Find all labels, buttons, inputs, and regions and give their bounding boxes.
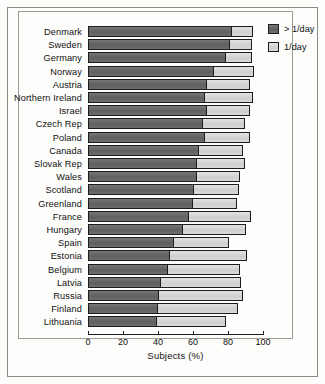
stacked-bar: [88, 184, 239, 195]
stacked-bar: [88, 290, 243, 301]
stacked-bar: [88, 105, 250, 116]
legend-swatch-dark-icon: [268, 24, 279, 34]
bar-segment-more-than-one-per-day: [89, 304, 158, 313]
stacked-bar: [88, 264, 240, 275]
bar-segment-one-per-day: [158, 304, 237, 313]
bar-segment-more-than-one-per-day: [89, 278, 161, 287]
bar-segment-one-per-day: [183, 225, 244, 234]
stacked-bar: [88, 79, 250, 90]
bar-segment-more-than-one-per-day: [89, 212, 189, 221]
stacked-bar: [88, 118, 245, 129]
bar-segment-more-than-one-per-day: [89, 185, 194, 194]
x-tick-label: 80: [215, 337, 241, 348]
bar-segment-one-per-day: [194, 185, 238, 194]
stacked-bar: [88, 26, 253, 37]
chart-legend: > 1/day 1/day: [268, 22, 320, 58]
bar-segment-one-per-day: [199, 146, 242, 155]
stacked-bar: [88, 224, 246, 235]
bar-segment-one-per-day: [226, 53, 251, 62]
bar-segment-one-per-day: [189, 212, 250, 221]
stacked-bar: [88, 171, 240, 182]
bar-segment-more-than-one-per-day: [89, 159, 197, 168]
bar-segment-more-than-one-per-day: [89, 146, 199, 155]
bar-segment-one-per-day: [157, 317, 225, 326]
bar-segment-more-than-one-per-day: [89, 67, 214, 76]
stacked-bar: [88, 132, 250, 143]
bar-segment-more-than-one-per-day: [89, 40, 230, 49]
bar-segment-more-than-one-per-day: [89, 317, 157, 326]
bar-segment-one-per-day: [161, 278, 240, 287]
bar-segment-one-per-day: [207, 106, 249, 115]
stacked-bar: [88, 198, 237, 209]
x-tick-label: 20: [110, 337, 136, 348]
stacked-bar: [88, 237, 229, 248]
stacked-bar: [88, 145, 243, 156]
bar-segment-more-than-one-per-day: [89, 172, 197, 181]
stacked-bar: [88, 92, 253, 103]
y-axis-label: Lithuania: [0, 314, 82, 330]
bar-segment-one-per-day: [205, 133, 249, 142]
stacked-bar: [88, 303, 238, 314]
stacked-bar: [88, 250, 247, 261]
bar-segment-one-per-day: [203, 119, 244, 128]
x-tick-mark: [123, 331, 124, 335]
x-axis-line: [88, 334, 263, 335]
bar-segment-one-per-day: [170, 251, 246, 260]
x-tick-label: 0: [75, 337, 101, 348]
x-tick-mark: [228, 331, 229, 335]
bar-segment-more-than-one-per-day: [89, 27, 232, 36]
x-axis-title: Subjects (%): [88, 350, 263, 361]
bar-segment-one-per-day: [207, 80, 249, 89]
bar-segment-one-per-day: [232, 27, 253, 36]
legend-swatch-light-icon: [268, 42, 279, 52]
x-tick-mark: [263, 331, 264, 335]
stacked-bar: [88, 277, 241, 288]
legend-item-one-per-day: 1/day: [268, 40, 320, 55]
bar-segment-one-per-day: [197, 159, 244, 168]
stacked-bar: [88, 158, 245, 169]
bar-segment-more-than-one-per-day: [89, 80, 207, 89]
bar-segment-more-than-one-per-day: [89, 291, 159, 300]
bar-segment-one-per-day: [159, 291, 242, 300]
bar-segment-more-than-one-per-day: [89, 238, 174, 247]
x-tick-label: 40: [145, 337, 171, 348]
bar-segment-more-than-one-per-day: [89, 106, 207, 115]
stacked-bar: [88, 211, 251, 222]
chart-figure: DenmarkSwedenGermanyNorwayAustriaNorther…: [0, 0, 325, 384]
x-tick-mark: [88, 331, 89, 335]
stacked-bar: [88, 39, 252, 50]
x-tick-label: 60: [180, 337, 206, 348]
bar-segment-one-per-day: [168, 265, 240, 274]
stacked-bar: [88, 316, 226, 327]
x-tick-mark: [158, 331, 159, 335]
bar-segment-one-per-day: [193, 199, 236, 208]
bar-segment-one-per-day: [214, 67, 253, 76]
bar-segment-one-per-day: [174, 238, 228, 247]
bar-segment-more-than-one-per-day: [89, 265, 168, 274]
legend-label-more-than-one-per-day: > 1/day: [284, 22, 314, 37]
bar-segment-more-than-one-per-day: [89, 199, 193, 208]
bar-segment-more-than-one-per-day: [89, 119, 203, 128]
bar-segment-more-than-one-per-day: [89, 225, 183, 234]
bar-segment-more-than-one-per-day: [89, 133, 205, 142]
bar-segment-more-than-one-per-day: [89, 251, 170, 260]
legend-item-more-than-one-per-day: > 1/day: [268, 22, 320, 37]
legend-label-one-per-day: 1/day: [284, 40, 306, 55]
bar-segment-more-than-one-per-day: [89, 93, 205, 102]
stacked-bar: [88, 52, 252, 63]
stacked-bar: [88, 66, 254, 77]
x-tick-label: 100: [250, 337, 276, 348]
chart-row: Lithuania: [0, 314, 325, 330]
bar-segment-more-than-one-per-day: [89, 53, 226, 62]
x-tick-mark: [193, 331, 194, 335]
bar-segment-one-per-day: [205, 93, 253, 102]
bar-segment-one-per-day: [197, 172, 239, 181]
bar-segment-one-per-day: [230, 40, 251, 49]
